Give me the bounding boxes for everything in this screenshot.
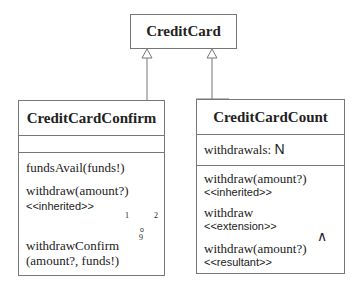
attr-type: N	[274, 141, 284, 157]
stereotype-inherited: <<inherited>>	[26, 200, 94, 212]
op-withdraw-resultant: withdraw(amount?)	[204, 241, 307, 257]
stereotype-resultant: <<resultant>>	[204, 256, 272, 268]
attr-withdrawals: withdrawals: N	[204, 141, 285, 158]
compose-gate-symbol-top: o	[140, 226, 144, 233]
gate-port-2: 2	[154, 211, 158, 220]
class-name: CreditCardCount	[197, 100, 344, 134]
and-gate-symbol: ∧	[317, 228, 327, 244]
class-creditcard[interactable]: CreditCard	[130, 14, 237, 49]
class-name: CreditCard	[131, 15, 236, 48]
op-withdraw-inherited: withdraw(amount?)	[204, 171, 307, 187]
op-withdraw: withdraw(amount?)	[26, 183, 129, 199]
op-funds-avail: fundsAvail(funds!)	[26, 160, 125, 176]
attr-name: withdrawals:	[204, 142, 271, 157]
compose-gate-symbol-bottom: 9	[139, 233, 143, 242]
op-withdraw-extension: withdraw	[204, 205, 253, 221]
op-withdraw-confirm: withdrawConfirm	[26, 238, 119, 254]
stereotype-extension: <<extension>>	[204, 220, 277, 232]
attributes-section	[19, 135, 164, 152]
class-name: CreditCardConfirm	[19, 101, 164, 135]
gate-port-1: 1	[125, 211, 129, 220]
op-withdraw-confirm-params: (amount?, funds!)	[26, 253, 119, 269]
stereotype-inherited: <<inherited>>	[204, 186, 272, 198]
